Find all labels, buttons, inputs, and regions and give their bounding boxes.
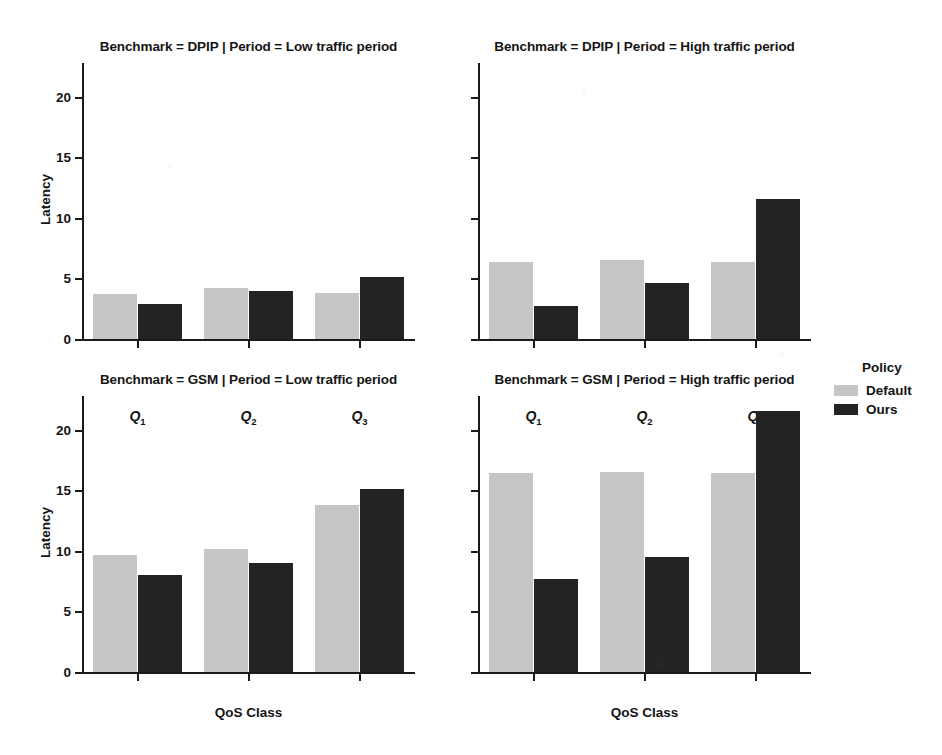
y-axis-label: Latency bbox=[38, 161, 53, 239]
bar-ours-q2 bbox=[249, 291, 293, 339]
x-axis-tick-label: Q3 bbox=[351, 408, 367, 427]
bar-default-q1 bbox=[93, 294, 137, 339]
y-axis-tick-label: 10 bbox=[56, 543, 71, 558]
y-axis-line bbox=[478, 63, 480, 341]
y-axis-tick bbox=[471, 157, 478, 159]
x-axis-tick bbox=[359, 674, 361, 681]
y-axis-tick bbox=[75, 551, 82, 553]
y-axis-tick-label: 0 bbox=[63, 665, 71, 680]
bar-ours-q2 bbox=[249, 563, 293, 672]
chart-panel: Benchmark = DPIP | Period = High traffic… bbox=[478, 63, 811, 341]
y-axis-tick bbox=[471, 218, 478, 220]
legend-label: Default bbox=[866, 383, 912, 398]
y-axis-tick bbox=[75, 672, 82, 674]
x-axis-tick bbox=[755, 674, 757, 681]
x-axis-tick bbox=[533, 674, 535, 681]
bar-ours-q1 bbox=[138, 304, 182, 339]
bar-ours-q1 bbox=[138, 575, 182, 672]
legend-entry[interactable]: Ours bbox=[834, 400, 942, 419]
panel-title: Benchmark = DPIP | Period = Low traffic … bbox=[82, 39, 415, 54]
x-axis-tick bbox=[755, 341, 757, 348]
x-axis-tick bbox=[248, 674, 250, 681]
x-axis-tick-label: Q1 bbox=[129, 408, 145, 427]
bar-ours-q1 bbox=[534, 306, 578, 339]
y-axis-line bbox=[82, 396, 84, 674]
y-axis-tick-label: 5 bbox=[63, 271, 71, 286]
y-axis-tick-label: 20 bbox=[56, 422, 71, 437]
y-axis-tick bbox=[471, 97, 478, 99]
y-axis-tick-label: 5 bbox=[63, 604, 71, 619]
bar-default-q1 bbox=[93, 555, 137, 672]
y-axis-tick bbox=[75, 97, 82, 99]
bar-ours-q2 bbox=[645, 283, 689, 339]
legend-entries: DefaultOurs bbox=[834, 381, 942, 419]
x-axis-tick bbox=[644, 341, 646, 348]
panel-title: Benchmark = GSM | Period = Low traffic p… bbox=[82, 372, 415, 387]
y-axis-tick-label: 20 bbox=[56, 89, 71, 104]
bar-default-q3 bbox=[315, 505, 359, 672]
y-axis-tick bbox=[75, 339, 82, 341]
bar-default-q2 bbox=[204, 549, 248, 672]
figure-bar-chart-facets: Benchmark = DPIP | Period = Low traffic … bbox=[0, 0, 942, 755]
bar-ours-q3 bbox=[756, 411, 800, 672]
legend-swatch-ours bbox=[834, 404, 858, 415]
legend-entry[interactable]: Default bbox=[834, 381, 942, 400]
x-axis-tick bbox=[137, 674, 139, 681]
x-axis-tick bbox=[533, 341, 535, 348]
bar-default-q2 bbox=[600, 472, 644, 672]
y-axis-line bbox=[82, 63, 84, 341]
x-axis-label: QoS Class bbox=[478, 705, 811, 720]
y-axis-tick bbox=[75, 157, 82, 159]
y-axis-tick bbox=[75, 490, 82, 492]
x-axis-tick bbox=[137, 341, 139, 348]
panel-title: Benchmark = GSM | Period = High traffic … bbox=[478, 372, 811, 387]
chart-panel: Benchmark = GSM | Period = High traffic … bbox=[478, 396, 811, 674]
x-axis-tick bbox=[644, 674, 646, 681]
y-axis-tick bbox=[471, 611, 478, 613]
y-axis-tick bbox=[471, 672, 478, 674]
y-axis-tick bbox=[471, 339, 478, 341]
y-axis-tick bbox=[75, 218, 82, 220]
chart-panel: Benchmark = GSM | Period = Low traffic p… bbox=[82, 396, 415, 674]
y-axis-line bbox=[478, 396, 480, 674]
y-axis-tick bbox=[471, 490, 478, 492]
y-axis-tick-label: 15 bbox=[56, 483, 71, 498]
y-axis-tick-label: 10 bbox=[56, 210, 71, 225]
panel-title: Benchmark = DPIP | Period = High traffic… bbox=[478, 39, 811, 54]
bar-default-q2 bbox=[204, 288, 248, 339]
bar-default-q1 bbox=[489, 262, 533, 339]
x-axis-tick-label: Q2 bbox=[240, 408, 256, 427]
bar-default-q2 bbox=[600, 260, 644, 339]
bar-default-q3 bbox=[711, 262, 755, 339]
bar-ours-q3 bbox=[360, 277, 404, 339]
legend-title: Policy bbox=[862, 360, 942, 375]
bar-ours-q3 bbox=[360, 489, 404, 672]
bar-default-q3 bbox=[711, 473, 755, 672]
y-axis-tick bbox=[75, 611, 82, 613]
y-axis-tick-label: 15 bbox=[56, 150, 71, 165]
y-axis-tick bbox=[471, 430, 478, 432]
x-axis-tick-label: Q2 bbox=[636, 408, 652, 427]
legend-label: Ours bbox=[866, 402, 898, 417]
bar-ours-q3 bbox=[756, 199, 800, 339]
x-axis-tick-label: Q1 bbox=[525, 408, 541, 427]
bar-default-q3 bbox=[315, 293, 359, 339]
bar-ours-q1 bbox=[534, 579, 578, 672]
chart-panel: Benchmark = DPIP | Period = Low traffic … bbox=[82, 63, 415, 341]
bar-default-q1 bbox=[489, 473, 533, 672]
legend-swatch-default bbox=[834, 385, 858, 396]
legend: Policy DefaultOurs bbox=[834, 360, 942, 419]
x-axis-tick bbox=[248, 341, 250, 348]
y-axis-tick bbox=[471, 278, 478, 280]
y-axis-label: Latency bbox=[38, 494, 53, 572]
y-axis-tick bbox=[75, 278, 82, 280]
y-axis-tick bbox=[471, 551, 478, 553]
bar-ours-q2 bbox=[645, 557, 689, 672]
y-axis-tick-label: 0 bbox=[63, 332, 71, 347]
y-axis-tick bbox=[75, 430, 82, 432]
x-axis-label: QoS Class bbox=[82, 705, 415, 720]
x-axis-tick bbox=[359, 341, 361, 348]
